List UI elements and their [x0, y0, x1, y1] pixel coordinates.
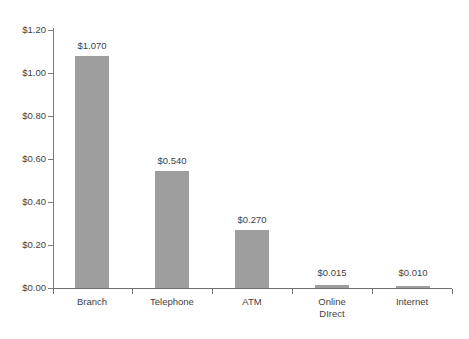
chart-title [0, 0, 469, 1]
x-category-label-telephone: Telephone [140, 296, 204, 308]
y-axis-line [53, 28, 54, 289]
x-category-label-internet: Internet [382, 296, 442, 308]
bar-value-atm: $0.270 [222, 214, 282, 225]
x-tick-5 [452, 289, 453, 294]
y-tick-label-0.80: $0.80 [2, 111, 46, 121]
bar-internet [396, 286, 430, 288]
y-tick-0.80 [48, 116, 53, 117]
bar-atm [235, 230, 269, 288]
y-tick-1.00 [48, 73, 53, 74]
y-tick-0.40 [48, 202, 53, 203]
y-tick-label-0.60: $0.60 [2, 154, 46, 164]
y-tick-label-1.00: $1.00 [2, 68, 46, 78]
bar-value-online-direct: $0.015 [302, 267, 362, 278]
x-category-label-atm: ATM [222, 296, 282, 308]
y-tick-1.20 [48, 30, 53, 31]
y-tick-0.60 [48, 159, 53, 160]
bar-chart: $1.20 $1.00 $0.80 $0.60 $0.40 $0.20 $0.0… [0, 0, 469, 339]
y-tick-label-0.00: $0.00 [2, 283, 46, 293]
y-tick-0.20 [48, 245, 53, 246]
bar-branch [75, 56, 109, 288]
bar-value-telephone: $0.540 [142, 155, 202, 166]
bar-value-internet: $0.010 [383, 267, 443, 278]
x-tick-2 [212, 289, 213, 294]
x-axis-line [53, 288, 452, 289]
y-tick-label-0.40: $0.40 [2, 197, 46, 207]
x-category-label-branch: Branch [62, 296, 122, 308]
x-tick-4 [372, 289, 373, 294]
bar-online-direct [315, 285, 349, 288]
x-tick-0 [53, 289, 54, 294]
x-tick-3 [292, 289, 293, 294]
bar-value-branch: $1.070 [62, 40, 122, 51]
bar-telephone [155, 171, 189, 288]
x-tick-1 [132, 289, 133, 294]
y-tick-label-0.20: $0.20 [2, 240, 46, 250]
x-category-label-online-direct: Online DIrect [302, 296, 362, 320]
y-tick-label-1.20: $1.20 [2, 25, 46, 35]
